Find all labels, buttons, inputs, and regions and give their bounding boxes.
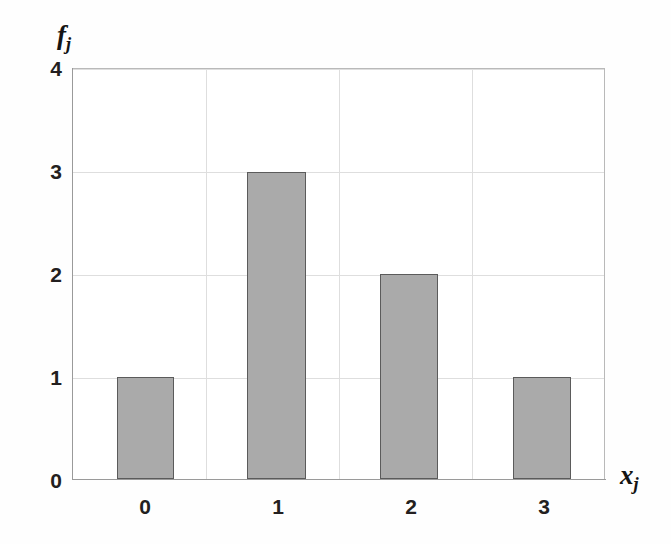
histogram-figure: 4 3 2 1 0 0 1 2 3 fj xj (0, 0, 671, 544)
y-tick-label-3: 3 (22, 161, 62, 182)
y-axis-title-base: f (57, 20, 66, 50)
gridline-x-3 (472, 69, 473, 479)
x-axis-title-subscript: j (634, 474, 639, 494)
x-tick-label-3: 3 (504, 496, 584, 517)
x-tick-label-1: 1 (238, 496, 318, 517)
y-tick-label-1: 1 (22, 367, 62, 388)
bar-category-3 (513, 377, 571, 480)
x-axis-title-base: x (620, 460, 634, 490)
bar-category-2 (380, 274, 438, 479)
y-axis-title-subscript: j (66, 34, 71, 54)
y-axis-ticks: 4 3 2 1 0 (14, 0, 62, 544)
x-tick-label-2: 2 (371, 496, 451, 517)
y-tick-label-4: 4 (22, 58, 62, 79)
gridline-x-1 (206, 69, 207, 479)
bar-category-1 (247, 172, 306, 480)
y-tick-label-2: 2 (22, 264, 62, 285)
bar-category-0 (117, 377, 174, 480)
y-axis-title: fj (57, 22, 71, 53)
x-tick-label-0: 0 (105, 496, 185, 517)
x-axis-line (72, 479, 606, 480)
gridline-x-2 (339, 69, 340, 479)
y-axis-line (72, 68, 73, 480)
plot-area (72, 68, 605, 480)
y-tick-label-0: 0 (22, 470, 62, 491)
x-axis-title: xj (620, 462, 639, 493)
